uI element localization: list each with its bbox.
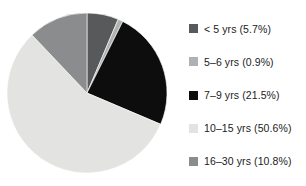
pie-chart-svg [7, 13, 167, 173]
legend-item-16-30-yrs[interactable]: 16–30 yrs (10.8%) [189, 145, 306, 178]
legend-label-10-15-yrs: 10–15 yrs (50.6%) [204, 122, 292, 134]
legend-label-5-6-yrs: 5–6 yrs (0.9%) [204, 56, 274, 68]
legend-swatch-under-5-yrs [189, 24, 198, 33]
pie-chart [7, 13, 167, 173]
legend-item-7-9-yrs[interactable]: 7–9 yrs (21.5%) [189, 78, 306, 111]
legend-label-under-5-yrs: < 5 yrs (5.7%) [204, 23, 271, 35]
legend-label-7-9-yrs: 7–9 yrs (21.5%) [204, 89, 280, 101]
legend-swatch-16-30-yrs [189, 157, 198, 166]
legend-swatch-5-6-yrs [189, 57, 198, 66]
legend-item-under-5-yrs[interactable]: < 5 yrs (5.7%) [189, 12, 306, 45]
legend-swatch-10-15-yrs [189, 124, 198, 133]
legend-swatch-7-9-yrs [189, 91, 198, 100]
chart-legend: < 5 yrs (5.7%) 5–6 yrs (0.9%) 7–9 yrs (2… [189, 12, 306, 178]
legend-item-5-6-yrs[interactable]: 5–6 yrs (0.9%) [189, 45, 306, 78]
legend-label-16-30-yrs: 16–30 yrs (10.8%) [204, 155, 292, 167]
pie-slice-group [7, 13, 167, 173]
legend-item-10-15-yrs[interactable]: 10–15 yrs (50.6%) [189, 112, 306, 145]
pie-chart-figure: < 5 yrs (5.7%) 5–6 yrs (0.9%) 7–9 yrs (2… [0, 0, 306, 186]
